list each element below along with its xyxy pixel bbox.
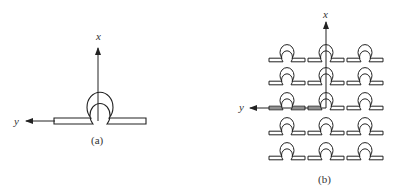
omega-resonator-cell [54, 92, 146, 124]
x-axis-label: x [322, 8, 328, 20]
y-axis-label: y [13, 115, 19, 127]
panel-b: x y (b) [238, 8, 383, 186]
diagram-canvas: x y (a) x y (b) [0, 0, 399, 194]
panel-a: x y (a) [13, 30, 146, 147]
panel-caption: (b) [318, 173, 331, 186]
panel-caption: (a) [91, 134, 104, 147]
y-axis-label: y [238, 101, 244, 113]
x-axis-label: x [95, 30, 101, 42]
